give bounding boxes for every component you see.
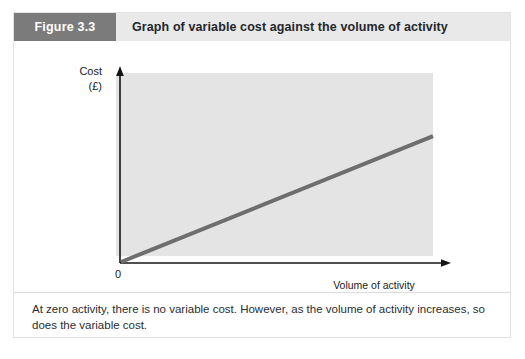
figure-header: Figure 3.3 Graph of variable cost agains… <box>14 13 510 41</box>
y-axis-unit-label: (£) <box>89 80 102 92</box>
plot-background <box>116 73 433 256</box>
x-axis-label: Volume of activity <box>333 279 415 291</box>
figure-title: Graph of variable cost against the volum… <box>116 13 510 41</box>
x-axis-arrow-icon <box>441 259 451 267</box>
chart-area: Cost (£) 0 Volume of activity <box>14 41 510 291</box>
y-axis-label: Cost <box>79 65 102 77</box>
figure-card: Figure 3.3 Graph of variable cost agains… <box>13 12 511 338</box>
caption-divider <box>14 292 510 293</box>
variable-cost-chart: Cost (£) 0 Volume of activity <box>14 41 512 291</box>
figure-caption: At zero activity, there is no variable c… <box>32 301 494 333</box>
figure-number-label: Figure 3.3 <box>14 13 116 41</box>
origin-label: 0 <box>115 268 121 280</box>
y-axis-arrow-icon <box>116 66 124 76</box>
